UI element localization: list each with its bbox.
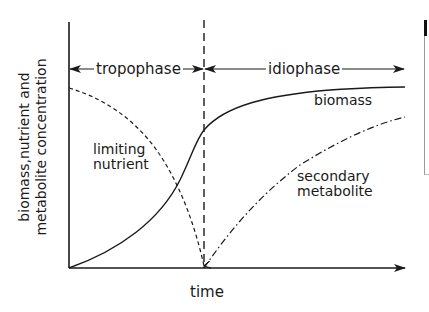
- edge-frame-cap: [424, 20, 427, 36]
- secondary-metabolite-label-line2: metabolite: [297, 184, 373, 199]
- secondary-metabolite-label-line1: secondary: [297, 169, 373, 184]
- tropophase-label: tropophase: [94, 61, 183, 77]
- x-axis-label: time: [190, 283, 224, 301]
- edge-frame-artifact: [424, 20, 429, 175]
- limiting-nutrient-curve: [69, 88, 204, 266]
- y-axis-label-line1: biomass,nutrient and: [16, 27, 33, 267]
- y-axis-label: biomass,nutrient and metabolite concentr…: [16, 27, 50, 267]
- limiting-nutrient-label: limiting nutrient: [93, 142, 149, 172]
- limiting-nutrient-label-line2: nutrient: [93, 157, 149, 172]
- idiophase-label: idiophase: [266, 61, 342, 77]
- secondary-metabolite-label: secondary metabolite: [297, 169, 373, 199]
- limiting-nutrient-label-line1: limiting: [93, 142, 149, 157]
- biomass-label: biomass: [314, 93, 372, 108]
- y-axis-label-line2: metabolite concentration: [33, 27, 50, 267]
